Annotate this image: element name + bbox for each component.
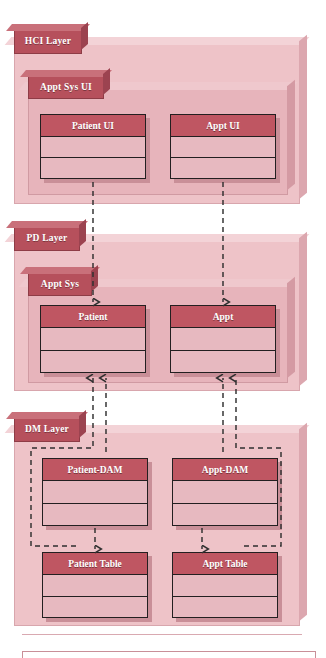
class-box-patient[interactable]: Patient — [40, 305, 146, 373]
class-body: Appt-DAM — [172, 458, 278, 526]
layer-tab-hci-label: HCI Layer — [25, 37, 71, 47]
panel-right-edge — [299, 232, 307, 387]
class-box-appt[interactable]: Appt — [170, 305, 276, 373]
package-tab-appt-sys-label: Appt Sys — [41, 280, 79, 290]
class-body: Appt — [170, 305, 276, 373]
tab-top-edge — [6, 221, 88, 228]
panel-right-edge — [287, 80, 295, 191]
layer-tab-dm-label: DM Layer — [25, 425, 69, 435]
panel-right-edge — [287, 277, 295, 379]
class-attributes-compartment — [173, 575, 277, 597]
class-body: Patient Table — [42, 552, 148, 618]
class-body: Patient UI — [40, 114, 146, 179]
class-box-patient-dam[interactable]: Patient-DAM — [42, 458, 148, 526]
class-operations-compartment — [43, 504, 147, 526]
package-tab-appt-sys-ui-label: Appt Sys UI — [40, 83, 92, 93]
class-name-appt-dam: Appt-DAM — [173, 459, 277, 481]
class-name-appt-table: Appt Table — [173, 553, 277, 575]
tab-top-edge — [20, 267, 100, 274]
class-operations-compartment — [171, 351, 275, 373]
package-tab-appt-sys[interactable]: Appt Sys — [28, 273, 92, 296]
tab-top-edge — [6, 24, 90, 31]
class-name-patient: Patient — [41, 306, 145, 328]
class-name-appt-ui: Appt UI — [171, 115, 275, 137]
class-attributes-compartment — [171, 137, 275, 158]
class-operations-compartment — [173, 504, 277, 526]
class-body: Patient — [40, 305, 146, 373]
caption-box — [22, 651, 316, 658]
class-box-appt-ui[interactable]: Appt UI — [170, 114, 276, 179]
class-name-patient-ui: Patient UI — [41, 115, 145, 137]
class-name-appt: Appt — [171, 306, 275, 328]
class-attributes-compartment — [43, 575, 147, 597]
panel-right-edge — [299, 423, 307, 622]
tab-top-edge — [6, 412, 88, 419]
class-attributes-compartment — [41, 137, 145, 158]
class-attributes-compartment — [41, 328, 145, 351]
class-body: Patient-DAM — [42, 458, 148, 526]
class-box-patient-ui[interactable]: Patient UI — [40, 114, 146, 179]
caption-rule-top — [22, 634, 302, 635]
class-operations-compartment — [41, 158, 145, 178]
layer-tab-dm[interactable]: DM Layer — [14, 418, 80, 442]
class-operations-compartment — [171, 158, 275, 178]
class-box-patient-table[interactable]: Patient Table — [42, 552, 148, 618]
layer-tab-pd-label: PD Layer — [27, 234, 68, 244]
class-operations-compartment — [43, 597, 147, 618]
tab-top-edge — [20, 70, 112, 77]
panel-right-edge — [299, 35, 307, 200]
layer-tab-hci[interactable]: HCI Layer — [14, 30, 82, 54]
class-operations-compartment — [41, 351, 145, 373]
class-attributes-compartment — [173, 481, 277, 504]
layer-tab-pd[interactable]: PD Layer — [14, 227, 80, 251]
class-operations-compartment — [173, 597, 277, 618]
package-tab-appt-sys-ui[interactable]: Appt Sys UI — [28, 76, 104, 99]
class-attributes-compartment — [171, 328, 275, 351]
class-body: Appt UI — [170, 114, 276, 179]
class-box-appt-table[interactable]: Appt Table — [172, 552, 278, 618]
class-attributes-compartment — [43, 481, 147, 504]
class-name-patient-dam: Patient-DAM — [43, 459, 147, 481]
class-name-patient-table: Patient Table — [43, 553, 147, 575]
class-body: Appt Table — [172, 552, 278, 618]
class-box-appt-dam[interactable]: Appt-DAM — [172, 458, 278, 526]
